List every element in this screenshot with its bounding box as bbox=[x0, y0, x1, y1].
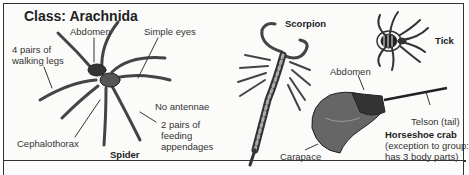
label-cephalothorax: Cephalothorax bbox=[17, 138, 79, 149]
label-spider: Spider bbox=[110, 149, 140, 160]
label-tick: Tick bbox=[435, 35, 454, 46]
label-line: has 3 body parts) bbox=[385, 151, 469, 162]
scorpion-illustration bbox=[238, 24, 310, 165]
label-carapace: Carapace bbox=[280, 151, 321, 162]
label-telson: Telson (tail) bbox=[411, 116, 460, 127]
spider-illustration bbox=[40, 22, 170, 145]
diagram-title: Class: Arachnida bbox=[24, 8, 138, 24]
label-walking-legs: 4 pairs of walking legs bbox=[12, 44, 64, 66]
label-crab-abdomen: Abdomen bbox=[330, 66, 371, 77]
label-line: 4 pairs of bbox=[12, 44, 64, 55]
label-crab-note: (exception to group: has 3 body parts) bbox=[385, 140, 469, 162]
label-feeding-appendages: 2 pairs of feeding appendages bbox=[161, 119, 213, 152]
label-no-antennae: No antennae bbox=[155, 101, 209, 112]
label-line: appendages bbox=[161, 141, 213, 152]
label-spider-abdomen: Abdomen bbox=[70, 26, 111, 37]
label-line: 2 pairs of bbox=[161, 119, 213, 130]
label-line: walking legs bbox=[12, 55, 64, 66]
label-line: feeding bbox=[161, 130, 213, 141]
label-horseshoe-crab: Horseshoe crab bbox=[385, 129, 457, 140]
tick-illustration bbox=[377, 12, 428, 70]
label-scorpion: Scorpion bbox=[285, 18, 326, 29]
label-line: (exception to group: bbox=[385, 140, 469, 151]
label-simple-eyes: Simple eyes bbox=[144, 26, 196, 37]
